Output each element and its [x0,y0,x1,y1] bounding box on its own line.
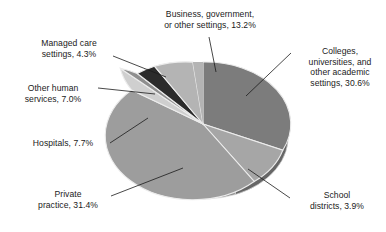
slice-label-school-districts: School districts, 3.9% [293,190,381,211]
slice-label-other-human-services: Other human services, 7.0% [9,83,97,104]
slice-label-private-practice: Private practice, 31.4% [26,189,110,210]
slice-label-hospitals: Hospitals, 7.7% [19,138,107,149]
slice-label-business-government-other: Business, government, or other settings,… [149,9,271,30]
slice-label-colleges-universities-academic: Colleges, universities, and other academ… [295,46,385,88]
pie-chart-figure: Business, government, or other settings,… [0,0,386,232]
slice-label-managed-care-settings: Managed care settings, 4.3% [26,38,112,59]
